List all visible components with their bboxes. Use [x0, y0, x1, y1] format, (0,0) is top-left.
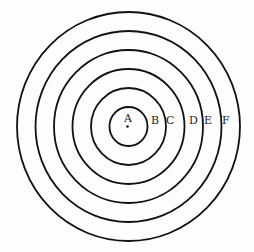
center-dot: [126, 125, 129, 128]
diagram-svg: ABCDEF: [0, 0, 254, 252]
label-c: C: [166, 114, 174, 127]
label-b: B: [151, 114, 159, 127]
label-d: D: [189, 114, 198, 127]
label-f: F: [222, 114, 230, 127]
label-e: E: [204, 114, 212, 127]
label-a: A: [123, 112, 133, 125]
concentric-circles-diagram: ABCDEF: [0, 0, 254, 252]
labels-group: ABCDEF: [123, 112, 230, 127]
